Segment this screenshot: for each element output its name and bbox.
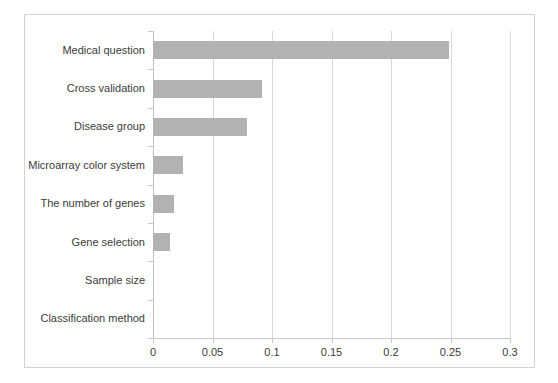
bar-row xyxy=(153,310,510,328)
bar[interactable] xyxy=(153,41,449,59)
category-label: Cross validation xyxy=(67,82,145,95)
x-tick-label: 0.15 xyxy=(321,346,342,359)
plot-area xyxy=(153,31,510,338)
x-tick-label: 0.3 xyxy=(502,346,517,359)
bar[interactable] xyxy=(153,195,174,213)
x-tick-label: 0.05 xyxy=(202,346,223,359)
x-tick-label: 0.1 xyxy=(264,346,279,359)
x-tick-label: 0.2 xyxy=(383,346,398,359)
bar-row xyxy=(153,271,510,289)
category-label: The number of genes xyxy=(40,197,145,210)
bar[interactable] xyxy=(153,233,170,251)
chart-figure: Medical questionCross validationDisease … xyxy=(0,0,558,383)
category-label: Classification method xyxy=(40,312,145,325)
bar-row xyxy=(153,41,510,59)
gridline-0.3 xyxy=(510,31,511,338)
category-label: Sample size xyxy=(85,274,145,287)
category-axis-labels: Medical questionCross validationDisease … xyxy=(25,31,153,338)
x-tick-0.25 xyxy=(451,338,452,343)
bar-row xyxy=(153,80,510,98)
x-tick-0.15 xyxy=(332,338,333,343)
bar[interactable] xyxy=(153,118,247,136)
category-label: Medical question xyxy=(62,44,145,57)
x-tick-label: 0.25 xyxy=(440,346,461,359)
x-axis-tick-labels: 00.050.10.150.20.250.3 xyxy=(25,346,536,366)
x-tick-label: 0 xyxy=(150,346,156,359)
x-tick-0.1 xyxy=(272,338,273,343)
bar-row xyxy=(153,233,510,251)
bar[interactable] xyxy=(153,156,183,174)
category-label: Microarray color system xyxy=(28,159,145,172)
x-tick-0.3 xyxy=(510,338,511,343)
x-tick-0.2 xyxy=(391,338,392,343)
category-label: Gene selection xyxy=(72,236,145,249)
chart-frame: Medical questionCross validationDisease … xyxy=(24,14,535,368)
x-tick-0 xyxy=(153,338,154,343)
bar-row xyxy=(153,156,510,174)
category-label: Disease group xyxy=(74,120,145,133)
bar[interactable] xyxy=(153,80,262,98)
bar-row xyxy=(153,118,510,136)
bar-row xyxy=(153,195,510,213)
x-tick-0.05 xyxy=(213,338,214,343)
